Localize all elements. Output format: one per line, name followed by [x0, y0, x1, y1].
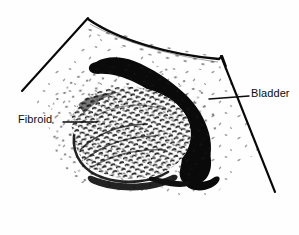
bladder-label: Bladder [251, 88, 290, 99]
fibroid-label: Fibroid [18, 114, 52, 125]
ultrasound-illustration-figure: Bladder Fibroid [0, 0, 299, 235]
